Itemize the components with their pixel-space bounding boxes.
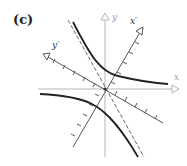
x-axis-arrow-icon [172,85,179,93]
origin-point [104,88,107,91]
rotated-axes [43,27,163,147]
x-prime-arrow-icon [136,27,143,35]
hyperbola-diagram: x y [0,0,187,166]
hyperbola-lower-branch [40,94,138,157]
y-prime-label: y′ [51,40,59,50]
x-axis-label: x [174,72,179,82]
y-axis-arrow-icon [101,13,109,20]
standard-axes [38,13,179,157]
y-prime-arrow-icon [43,53,50,60]
x-prime-label: x′ [130,16,137,26]
hyperbola-upper-branch [73,22,168,84]
y-axis-label: y [111,12,118,22]
